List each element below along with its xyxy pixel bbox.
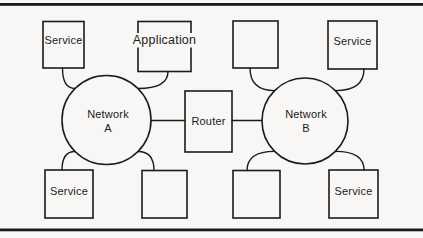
unlabeled-box-bottom-inner-left xyxy=(142,171,187,219)
connector-service-bottom-right-network-b xyxy=(335,151,364,170)
unlabeled-box-top-inner-right xyxy=(233,21,278,68)
service-box-top-right-label: Service xyxy=(333,35,371,47)
connector-box-bottom-inner-right-network-b xyxy=(247,151,275,170)
top-rule xyxy=(0,3,423,6)
connector-application-network-a xyxy=(138,72,168,89)
network-a-circle xyxy=(62,76,151,165)
network-b-label-line2: B xyxy=(302,122,310,134)
connector-service-top-left-network-a xyxy=(63,68,76,89)
network-a-label-line2: A xyxy=(104,122,112,134)
network-b-circle xyxy=(262,78,348,164)
connector-service-top-right-network-b xyxy=(335,69,364,91)
service-box-bottom-left-label: Service xyxy=(50,185,88,197)
service-box-bottom-right-label: Service xyxy=(334,185,372,197)
bottom-rule xyxy=(0,229,423,232)
unlabeled-box-bottom-inner-right xyxy=(233,171,280,219)
router-label: Router xyxy=(191,115,225,127)
network-diagram-canvas: Network A Network B Router Service Appli… xyxy=(0,0,423,238)
connector-box-bottom-inner-left-network-a xyxy=(138,152,154,171)
network-diagram-figure: Network A Network B Router Service Appli… xyxy=(0,0,423,238)
network-a-label-line1: Network xyxy=(87,108,129,120)
connector-service-bottom-left-network-a xyxy=(62,152,75,171)
network-b-label-line1: Network xyxy=(285,108,327,120)
application-label: Application xyxy=(133,33,196,47)
connector-box-top-inner-right-network-b xyxy=(250,68,275,91)
service-box-top-left-label: Service xyxy=(44,34,82,46)
